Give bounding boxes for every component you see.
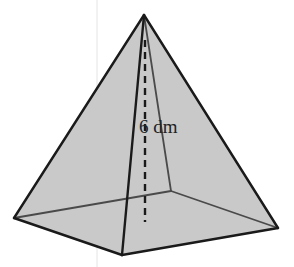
height-label: 6 dm — [139, 116, 178, 137]
pyramid-diagram: 6 dm — [0, 0, 294, 267]
